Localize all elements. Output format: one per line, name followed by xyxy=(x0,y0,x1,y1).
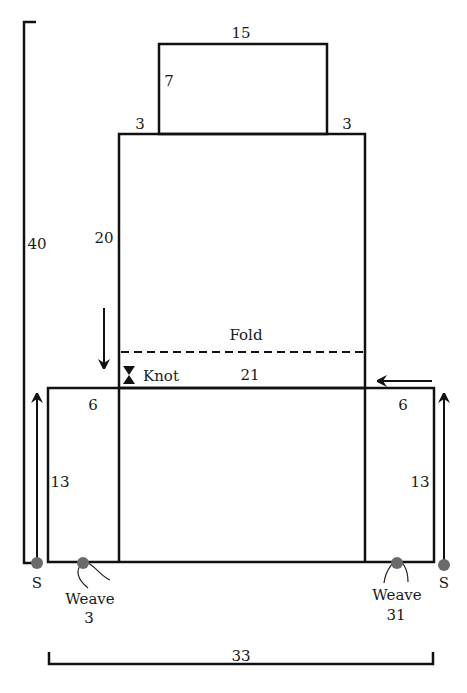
label-start-right: S xyxy=(439,574,449,592)
label-top-height: 7 xyxy=(164,72,174,90)
label-knot: Knot xyxy=(143,367,179,385)
label-weave-left-num: 3 xyxy=(84,609,94,627)
label-weave-right-num: 31 xyxy=(386,606,405,624)
label-side-left-width: 6 xyxy=(88,396,98,414)
label-total-height: 40 xyxy=(27,235,46,253)
label-total-width: 33 xyxy=(231,647,250,665)
weave-dot-right xyxy=(391,557,403,569)
label-middle-height: 20 xyxy=(94,229,113,247)
height-bracket xyxy=(24,22,37,563)
start-dot-left xyxy=(31,557,43,569)
label-shoulder-right: 3 xyxy=(342,115,352,133)
weave-dot-left xyxy=(77,557,89,569)
top-panel xyxy=(159,44,327,134)
middle-panel xyxy=(119,134,365,388)
label-top-width: 15 xyxy=(231,24,250,42)
start-dot-right xyxy=(438,559,450,571)
bottom-panel xyxy=(48,388,434,562)
label-fold: Fold xyxy=(229,326,262,344)
label-shoulder-left: 3 xyxy=(135,115,145,133)
label-middle-width: 21 xyxy=(240,366,259,384)
knot-icon xyxy=(123,366,135,384)
label-side-left-height: 13 xyxy=(50,473,69,491)
pattern-diagram: 15 7 3 3 20 40 Fold Knot 21 6 6 13 13 S … xyxy=(0,0,467,693)
label-side-right-height: 13 xyxy=(410,473,429,491)
label-start-left: S xyxy=(32,574,42,592)
label-weave-left: Weave xyxy=(65,590,114,608)
label-weave-right: Weave xyxy=(372,586,421,604)
label-side-right-width: 6 xyxy=(398,396,408,414)
